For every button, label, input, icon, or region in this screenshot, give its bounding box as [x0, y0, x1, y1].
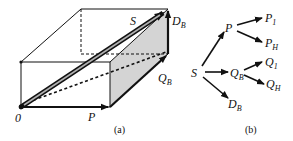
label-p: P — [87, 110, 96, 124]
label-s: S — [130, 14, 136, 28]
shaded-right-face — [110, 9, 168, 107]
edge-qb-qh — [244, 75, 264, 84]
decomposition-figure: 0 P S QB DB (a) S P P1 PH QB — [0, 0, 293, 141]
node-p: P — [224, 21, 233, 35]
edge-p-p1 — [237, 18, 262, 25]
edge-s-db — [203, 77, 228, 98]
edge-s-p — [202, 32, 224, 66]
edge-p-ph — [237, 31, 262, 42]
node-q1: Q1 — [265, 55, 278, 71]
caption-b: (b) — [245, 124, 257, 136]
panel-a: 0 P S QB DB (a) — [15, 9, 186, 136]
label-qb: QB — [158, 71, 172, 87]
corner-dot — [19, 60, 22, 63]
label-origin: 0 — [15, 111, 21, 125]
node-db: DB — [227, 97, 242, 113]
node-qh: QH — [266, 77, 282, 93]
caption-a: (a) — [114, 124, 125, 136]
edge-qb-q1 — [244, 62, 262, 70]
node-ph: PH — [264, 36, 279, 52]
panel-b: S P P1 PH QB Q1 QH DB (b) — [191, 11, 282, 136]
node-p1: P1 — [264, 11, 276, 27]
node-s: S — [191, 66, 197, 80]
label-db: DB — [171, 14, 186, 30]
node-qb: QB — [230, 66, 244, 82]
